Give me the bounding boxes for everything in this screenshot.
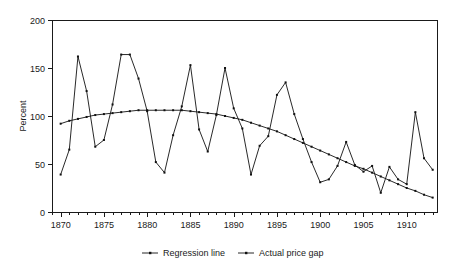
legend-item-actual-price-gap: Actual price gap — [238, 248, 324, 258]
data-point — [155, 161, 157, 163]
data-point — [414, 111, 416, 113]
data-point — [259, 125, 261, 127]
data-point — [241, 119, 243, 121]
data-point — [207, 112, 209, 114]
data-point — [129, 54, 131, 56]
data-point — [207, 151, 209, 153]
x-tick-label: 1905 — [353, 220, 373, 230]
data-point — [259, 145, 261, 147]
data-point — [362, 168, 364, 170]
data-point — [406, 187, 408, 189]
series-line — [61, 55, 433, 193]
data-point — [172, 134, 174, 136]
data-point — [302, 142, 304, 144]
data-point — [345, 141, 347, 143]
y-axis-title: Percent — [18, 100, 28, 132]
x-tick-label: 1885 — [180, 220, 200, 230]
data-point — [311, 161, 313, 163]
data-point — [414, 190, 416, 192]
data-point — [397, 183, 399, 185]
data-point — [319, 150, 321, 152]
data-point — [224, 67, 226, 69]
y-tick-label: 150 — [30, 64, 45, 74]
data-point — [60, 174, 62, 176]
data-point — [189, 64, 191, 66]
data-point — [189, 110, 191, 112]
series-actual-price-gap — [60, 54, 434, 194]
price-gap-line-chart: 050100150200 187018751880188518901895190… — [0, 0, 457, 272]
data-point — [293, 113, 295, 115]
data-point — [380, 192, 382, 194]
data-point — [120, 111, 122, 113]
data-point — [388, 166, 390, 168]
data-point — [94, 114, 96, 116]
legend-label: Actual price gap — [259, 248, 324, 258]
data-point — [181, 105, 183, 107]
data-point — [267, 127, 269, 129]
y-tick-label: 200 — [30, 16, 45, 26]
data-point — [328, 153, 330, 155]
data-point — [423, 194, 425, 196]
data-point — [163, 109, 165, 111]
legend-marker-dot — [149, 252, 151, 254]
data-point — [224, 115, 226, 117]
legend-label: Regression line — [163, 248, 225, 258]
data-point — [328, 178, 330, 180]
data-point — [163, 172, 165, 174]
data-point — [311, 146, 313, 148]
x-tick-label: 1895 — [267, 220, 287, 230]
y-axis: 050100150200 — [30, 16, 52, 218]
data-point — [276, 130, 278, 132]
data-point — [406, 183, 408, 185]
data-point — [267, 135, 269, 137]
data-point — [397, 178, 399, 180]
data-point — [345, 161, 347, 163]
data-point — [112, 103, 114, 105]
y-tick-label: 100 — [30, 112, 45, 122]
data-point — [112, 112, 114, 114]
data-point — [129, 110, 131, 112]
data-point — [293, 138, 295, 140]
data-point — [198, 128, 200, 130]
data-point — [68, 120, 70, 122]
x-tick-label: 1870 — [51, 220, 71, 230]
data-point — [60, 123, 62, 125]
legend-item-regression-line: Regression line — [142, 248, 225, 258]
plot-frame — [53, 21, 438, 213]
data-point — [337, 157, 339, 159]
y-tick-label: 0 — [40, 208, 45, 218]
data-point — [388, 179, 390, 181]
data-point — [337, 165, 339, 167]
data-point — [423, 157, 425, 159]
data-point — [250, 174, 252, 176]
data-point — [371, 165, 373, 167]
x-tick-label: 1910 — [397, 220, 417, 230]
chart-figure: 050100150200 187018751880188518901895190… — [0, 0, 457, 272]
data-point — [155, 109, 157, 111]
x-tick-label: 1880 — [137, 220, 157, 230]
x-tick-label: 1890 — [224, 220, 244, 230]
data-point — [86, 90, 88, 92]
data-point — [285, 134, 287, 136]
data-point — [241, 127, 243, 129]
data-point — [198, 111, 200, 113]
data-point — [120, 54, 122, 56]
data-point — [250, 122, 252, 124]
data-point — [371, 172, 373, 174]
legend-marker-dot — [245, 252, 247, 254]
data-point — [181, 109, 183, 111]
data-point — [215, 113, 217, 115]
data-point — [233, 117, 235, 119]
data-point — [94, 146, 96, 148]
data-point — [77, 118, 79, 120]
data-point — [432, 169, 434, 171]
data-point — [233, 107, 235, 109]
data-point — [302, 138, 304, 140]
x-tick-label: 1900 — [310, 220, 330, 230]
data-point — [354, 165, 356, 167]
x-tick-label: 1875 — [94, 220, 114, 230]
data-point — [276, 94, 278, 96]
data-point — [146, 109, 148, 111]
data-point — [138, 109, 140, 111]
data-point — [285, 81, 287, 83]
